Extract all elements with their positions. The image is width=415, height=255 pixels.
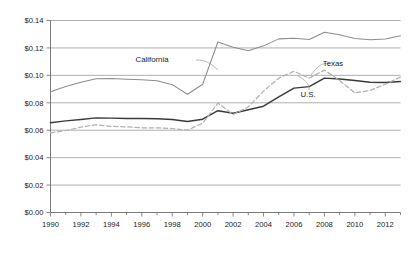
y-tick-label-4: $0.08 xyxy=(24,99,43,108)
x-tick-label-1994: 1994 xyxy=(103,220,120,229)
leader-line-california xyxy=(196,60,218,70)
y-axis-ticks: $0.00$0.02$0.04$0.06$0.08$0.10$0.12$0.14 xyxy=(24,16,50,217)
chart-canvas: $0.00$0.02$0.04$0.06$0.08$0.10$0.12$0.14… xyxy=(0,0,415,255)
y-tick-label-2: $0.04 xyxy=(24,153,43,162)
series-label-us: U.S. xyxy=(300,90,315,99)
y-tick-label-3: $0.06 xyxy=(24,126,43,135)
y-tick-label-6: $0.12 xyxy=(24,44,43,53)
y-tick-label-5: $0.10 xyxy=(24,71,43,80)
line-chart: $0.00$0.02$0.04$0.06$0.08$0.10$0.12$0.14… xyxy=(0,0,415,255)
series-line-california xyxy=(51,32,401,94)
data-series xyxy=(51,32,401,133)
y-tick-label-0: $0.00 xyxy=(24,208,43,217)
x-tick-label-2002: 2002 xyxy=(225,220,242,229)
x-tick-label-1998: 1998 xyxy=(164,220,181,229)
x-tick-label-2010: 2010 xyxy=(346,220,363,229)
x-tick-label-2006: 2006 xyxy=(286,220,303,229)
series-line-us xyxy=(51,78,401,123)
x-axis-ticks: 1990199219941996199820002002200420062008… xyxy=(42,213,400,229)
y-tick-label-1: $0.02 xyxy=(24,181,43,190)
x-tick-label-2012: 2012 xyxy=(377,220,394,229)
x-tick-label-1996: 1996 xyxy=(133,220,150,229)
series-label-california: California xyxy=(136,55,170,64)
x-tick-label-2004: 2004 xyxy=(255,220,272,229)
axes xyxy=(51,21,401,213)
x-tick-label-2008: 2008 xyxy=(316,220,333,229)
x-tick-label-1992: 1992 xyxy=(72,220,89,229)
x-tick-label-2000: 2000 xyxy=(194,220,211,229)
y-tick-label-7: $0.14 xyxy=(24,16,43,25)
x-tick-label-1990: 1990 xyxy=(42,220,59,229)
series-label-texas: Texas xyxy=(323,59,343,68)
